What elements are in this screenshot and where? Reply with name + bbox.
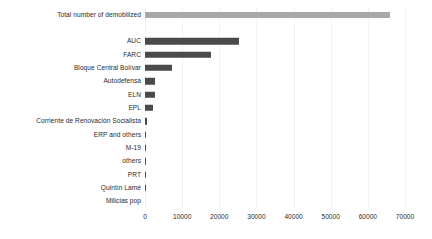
x-axis-tick-label: 0	[143, 212, 147, 222]
bar-cell	[145, 128, 432, 141]
bar	[145, 131, 146, 138]
bar	[145, 118, 147, 125]
bar	[145, 105, 153, 112]
bar-rows: Total number of demobilizedAUCFARCBloque…	[0, 8, 432, 208]
bar	[145, 38, 239, 45]
bar-cell	[145, 75, 432, 88]
x-axis-tick-label: 30000	[247, 212, 265, 222]
x-axis-tick-label: 60000	[359, 212, 377, 222]
bar-row: Corriente de Renovación Socialista	[0, 115, 432, 128]
bar-cell	[145, 141, 432, 154]
bar-row: EPL	[0, 101, 432, 114]
bar-chart: Total number of demobilizedAUCFARCBloque…	[0, 0, 432, 239]
bar	[145, 78, 155, 85]
bar-cell	[145, 155, 432, 168]
bar	[145, 171, 146, 178]
bar-row: others	[0, 155, 432, 168]
bar	[145, 158, 146, 165]
bar-cell	[145, 195, 432, 208]
bar-cell	[145, 21, 432, 34]
bar-row: ERP and others	[0, 128, 432, 141]
bar-row-label: FARC	[0, 51, 145, 59]
bar-row: AUC	[0, 35, 432, 48]
bar-cell	[145, 181, 432, 194]
bar	[145, 51, 211, 58]
bar-row-label: PRT	[0, 171, 145, 179]
x-axis-tick-label: 40000	[284, 212, 302, 222]
bar-row-label: AUC	[0, 37, 145, 45]
bar-cell	[145, 35, 432, 48]
x-axis-tick-label: 70000	[396, 212, 414, 222]
bar-cell	[145, 61, 432, 74]
x-axis-tick-label: 50000	[322, 212, 340, 222]
bar-row	[0, 21, 432, 34]
bar	[145, 145, 146, 152]
bar	[145, 91, 155, 98]
bar	[145, 12, 390, 18]
bar-row: M-19	[0, 141, 432, 154]
bar-cell	[145, 8, 432, 21]
bar-cell	[145, 168, 432, 181]
bar-row-label: ERP and others	[0, 131, 145, 139]
bar-cell	[145, 115, 432, 128]
x-axis: 010000200003000040000500006000070000	[0, 212, 432, 228]
bar-row: Bloque Central Bolívar	[0, 61, 432, 74]
bar-row: FARC	[0, 48, 432, 61]
bar	[145, 65, 172, 72]
bar-cell	[145, 88, 432, 101]
bar-cell	[145, 101, 432, 114]
bar-row-label: Autodefensa	[0, 77, 145, 85]
x-axis-tick-label: 10000	[173, 212, 191, 222]
bar-row-label: Corriente de Renovación Socialista	[0, 117, 145, 125]
bar-row: Total number of demobilized	[0, 8, 432, 21]
bar-row-label: EPL	[0, 104, 145, 112]
bar-row-label: ELN	[0, 91, 145, 99]
bar-row: ELN	[0, 88, 432, 101]
bar-row: PRT	[0, 168, 432, 181]
bar-row-label: Milicias pop	[0, 197, 145, 205]
bar-row-label: Total number of demobilized	[0, 11, 145, 19]
bar-row-label: M-19	[0, 144, 145, 152]
bar	[145, 185, 146, 192]
bar-cell	[145, 48, 432, 61]
bar-row-label: Bloque Central Bolívar	[0, 64, 145, 72]
x-axis-tick-label: 20000	[210, 212, 228, 222]
bar-row-label: others	[0, 157, 145, 165]
bar-row: Milicias pop	[0, 195, 432, 208]
bar-row-label: Quintín Lamé	[0, 184, 145, 192]
bar-row: Autodefensa	[0, 75, 432, 88]
bar-row: Quintín Lamé	[0, 181, 432, 194]
